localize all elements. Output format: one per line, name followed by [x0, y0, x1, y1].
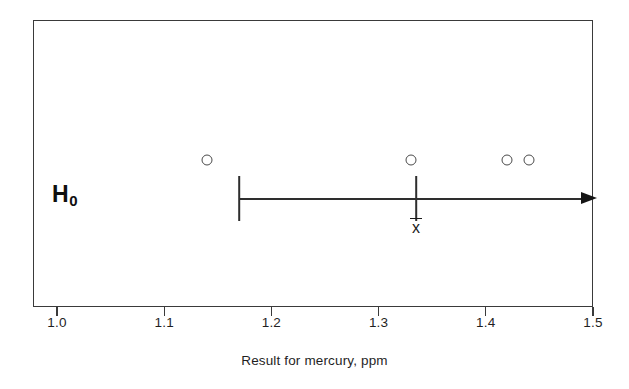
x-axis-tick-label: 1.3	[369, 315, 388, 330]
mercury-result-figure: H0 x 1.01.11.21.31.41.5 Result for mercu…	[0, 0, 629, 389]
x-axis-tick-label: 1.0	[47, 315, 66, 330]
x-axis-title: Result for mercury, ppm	[0, 353, 629, 368]
h0-main-glyph: H	[52, 181, 69, 207]
data-point-marker	[405, 155, 416, 166]
mean-label: x	[410, 218, 422, 237]
x-axis-tick-label: 1.5	[583, 315, 602, 330]
data-point-marker	[202, 155, 213, 166]
data-point-marker	[523, 155, 534, 166]
x-axis-tick-label: 1.4	[476, 315, 495, 330]
x-axis-tick-label: 1.2	[262, 315, 281, 330]
data-point-marker	[502, 155, 513, 166]
interval-start-tick	[238, 176, 240, 221]
null-hypothesis-label: H0	[52, 183, 77, 208]
arrow-head-icon	[581, 192, 597, 204]
x-axis-tick-label: 1.1	[155, 315, 174, 330]
xbar-glyph: x	[410, 220, 422, 237]
mean-tick	[415, 176, 417, 221]
h0-subscript-glyph: 0	[69, 192, 77, 209]
interval-line	[239, 198, 581, 200]
